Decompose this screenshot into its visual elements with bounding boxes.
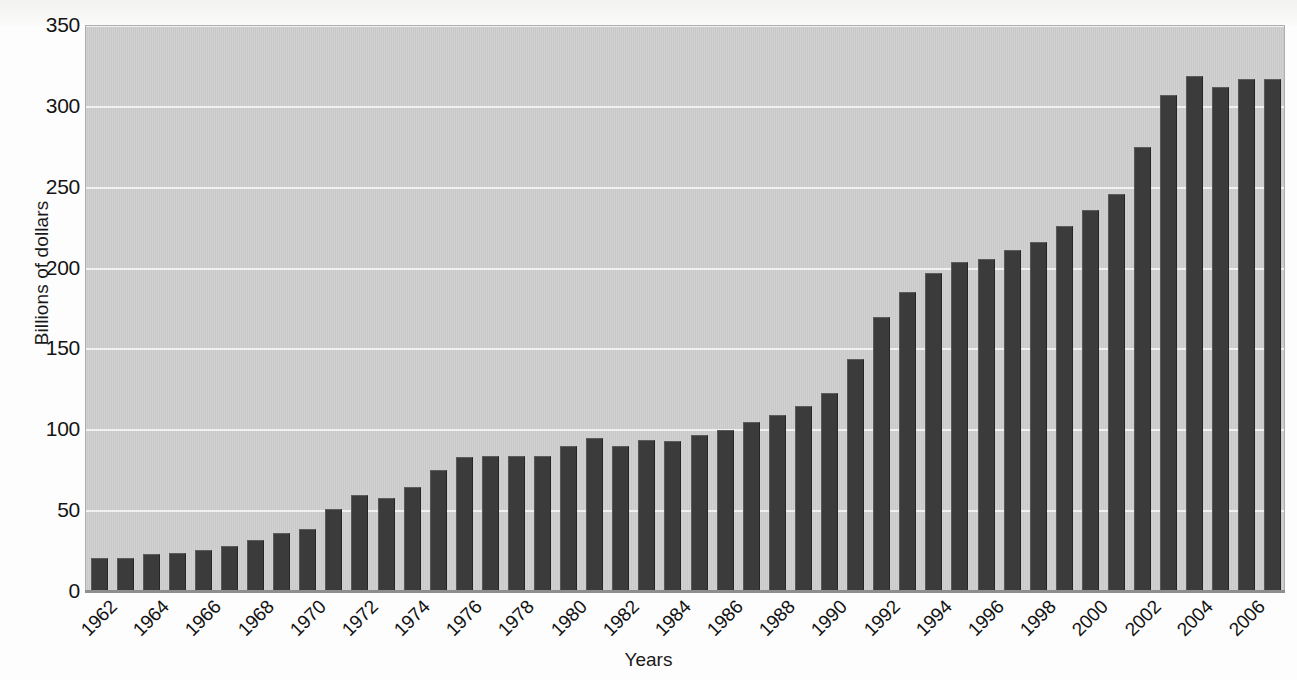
bar-2002 — [1134, 147, 1151, 590]
bar-1997 — [1004, 250, 1021, 590]
bar-1964 — [143, 554, 160, 590]
paper-background — [0, 0, 1297, 26]
bar-1986 — [717, 430, 734, 590]
bar-1981 — [586, 438, 603, 590]
bar-1962 — [91, 558, 108, 590]
bar-2003 — [1160, 95, 1177, 590]
bar-1991 — [847, 359, 864, 590]
bar-1987 — [743, 422, 760, 590]
bar-2004 — [1186, 76, 1203, 590]
bar-1974 — [404, 487, 421, 590]
bar-1963 — [117, 558, 134, 590]
bar-1994 — [925, 273, 942, 590]
bar-chart-figure: Billions of dollars 05010015020025030035… — [0, 0, 1297, 680]
bar-1966 — [195, 550, 212, 590]
y-axis-tick-200: 200 — [6, 256, 80, 280]
bar-2006 — [1238, 79, 1255, 590]
bar-1971 — [325, 509, 342, 590]
bar-1990 — [821, 393, 838, 590]
bar-1968 — [247, 540, 264, 590]
y-axis-tick-150: 150 — [6, 336, 80, 360]
bar-1975 — [430, 470, 447, 590]
y-axis-tick-350: 350 — [6, 13, 80, 37]
bar-2007 — [1264, 79, 1281, 590]
bar-1985 — [691, 435, 708, 590]
bar-1972 — [351, 495, 368, 590]
x-axis-title: Years — [0, 649, 1297, 671]
bar-1978 — [508, 456, 525, 590]
y-axis-tick-labels: 050100150200250300350 — [0, 0, 80, 680]
bar-1980 — [560, 446, 577, 590]
y-axis-tick-250: 250 — [6, 175, 80, 199]
bar-1998 — [1030, 242, 1047, 590]
bar-1967 — [221, 546, 238, 590]
y-axis-tick-300: 300 — [6, 94, 80, 118]
bar-1999 — [1056, 226, 1073, 590]
bar-1995 — [951, 262, 968, 590]
bar-2000 — [1082, 210, 1099, 590]
bar-1993 — [899, 292, 916, 590]
bar-1969 — [273, 533, 290, 590]
bar-series — [86, 26, 1284, 590]
bar-1970 — [299, 529, 316, 590]
bar-1983 — [638, 440, 655, 590]
bar-1976 — [456, 457, 473, 590]
bar-1965 — [169, 553, 186, 590]
bar-1973 — [378, 498, 395, 590]
bar-2005 — [1212, 87, 1229, 590]
bar-2001 — [1108, 194, 1125, 590]
bar-1988 — [769, 415, 786, 590]
bar-1979 — [534, 456, 551, 590]
plot-area — [85, 25, 1285, 591]
bar-1984 — [664, 441, 681, 590]
bar-1977 — [482, 456, 499, 590]
bar-1996 — [978, 259, 995, 591]
y-axis-tick-50: 50 — [6, 498, 80, 522]
bar-1992 — [873, 317, 890, 590]
bar-1989 — [795, 406, 812, 590]
y-axis-tick-100: 100 — [6, 417, 80, 441]
x-axis-baseline — [85, 590, 1285, 593]
x-axis-tick-labels: 1962196419661968197019721974197619781980… — [0, 596, 1297, 656]
bar-1982 — [612, 446, 629, 590]
